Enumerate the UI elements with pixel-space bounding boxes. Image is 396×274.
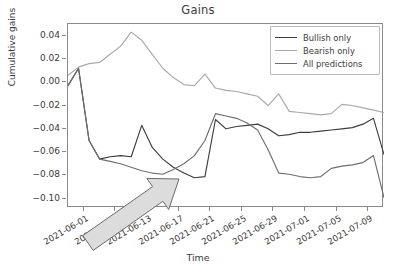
legend-item-bullish-only: Bullish only: [275, 31, 374, 44]
y-tick-mark: [62, 105, 66, 106]
legend-line-icon-bearish: [275, 50, 297, 51]
x-tick-mark: [83, 207, 84, 211]
x-tick-mark: [146, 207, 147, 211]
legend-line-icon-all: [275, 63, 297, 64]
chart-figure: Gains Cumulative gains Bullish only Bear…: [0, 0, 396, 274]
y-tick-label: 0.02: [0, 53, 60, 63]
y-tick-mark: [62, 174, 66, 175]
y-tick-label: −0.02: [0, 100, 60, 110]
x-tick-mark: [178, 207, 179, 211]
line-all-predictions: [68, 68, 384, 197]
legend-label-bearish: Bearish only: [303, 46, 355, 56]
x-tick-mark: [367, 207, 368, 211]
legend-item-bearish-only: Bearish only: [275, 44, 374, 57]
x-tick-mark: [304, 207, 305, 211]
legend-line-icon-bullish: [275, 37, 297, 38]
y-tick-label: −0.08: [0, 169, 60, 179]
y-tick-mark: [62, 58, 66, 59]
y-tick-mark: [62, 198, 66, 199]
legend: Bullish only Bearish only All prediction…: [270, 26, 380, 75]
y-tick-mark: [62, 35, 66, 36]
y-tick-mark: [62, 151, 66, 152]
y-tick-label: 0.00: [0, 76, 60, 86]
x-tick-mark: [114, 207, 115, 211]
x-tick-mark: [241, 207, 242, 211]
legend-label-all: All predictions: [303, 59, 362, 69]
y-tick-mark: [62, 128, 66, 129]
x-tick-mark: [209, 207, 210, 211]
legend-label-bullish: Bullish only: [303, 33, 351, 43]
line-bullish-only: [68, 68, 384, 177]
y-tick-label: −0.06: [0, 146, 60, 156]
y-tick-label: −0.10: [0, 193, 60, 203]
y-tick-label: −0.04: [0, 123, 60, 133]
y-tick-mark: [62, 81, 66, 82]
y-tick-label: 0.04: [0, 30, 60, 40]
legend-item-all-predictions: All predictions: [275, 57, 374, 70]
x-tick-mark: [336, 207, 337, 211]
x-tick-mark: [272, 207, 273, 211]
x-axis-label: Time: [0, 252, 396, 263]
